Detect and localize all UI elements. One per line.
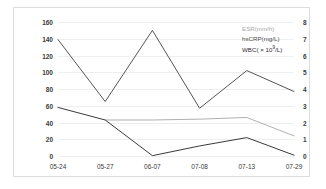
legend-wbc-suffix: /L) [275,46,282,53]
y-axis-left-tick-label: 80 [46,86,53,93]
series-line-wbc [58,107,294,155]
x-axis-tick-label: 05-24 [50,163,67,170]
x-axis-tick-label: 06-07 [144,163,161,170]
x-axis-tick-label: 05-27 [97,163,114,170]
y-axis-right-tick-label: 0 [303,153,307,160]
y-axis-left-tick-label: 120 [42,52,53,59]
x-axis-tick-label: 07-29 [286,163,303,170]
legend-item-esr: ESR(mm/h) [242,24,314,34]
y-axis-left-tick-label: 140 [42,35,53,42]
legend-item-wbc: WBC( × 109/L) [242,43,314,55]
legend-item-hscrp: hsCRP(mg/L) [242,34,314,44]
chart-legend: ESR(mm/h) hsCRP(mg/L) WBC( × 109/L) [242,24,314,55]
y-axis-right-tick-label: 4 [303,86,307,93]
gridline [58,156,294,157]
series-line-esr [105,117,294,135]
y-axis-right-tick-label: 2 [303,119,307,126]
y-axis-left-tick-label: 20 [46,136,53,143]
x-axis-tick-label: 07-08 [191,163,208,170]
chart-frame: 020406080100120140160 012345678 05-2405-… [13,7,310,177]
y-axis-right-tick-label: 5 [303,69,307,76]
y-axis-left-tick-label: 60 [46,102,53,109]
y-axis-right-tick-label: 1 [303,136,307,143]
y-axis-right-tick-label: 3 [303,102,307,109]
y-axis-left-tick-label: 100 [42,69,53,76]
x-axis-tick-label: 07-13 [238,163,255,170]
legend-wbc-prefix: WBC( × 10 [242,46,272,53]
y-axis-left-tick-label: 160 [42,19,53,26]
y-axis-left-tick-label: 0 [49,153,53,160]
y-axis-left-tick-label: 40 [46,119,53,126]
